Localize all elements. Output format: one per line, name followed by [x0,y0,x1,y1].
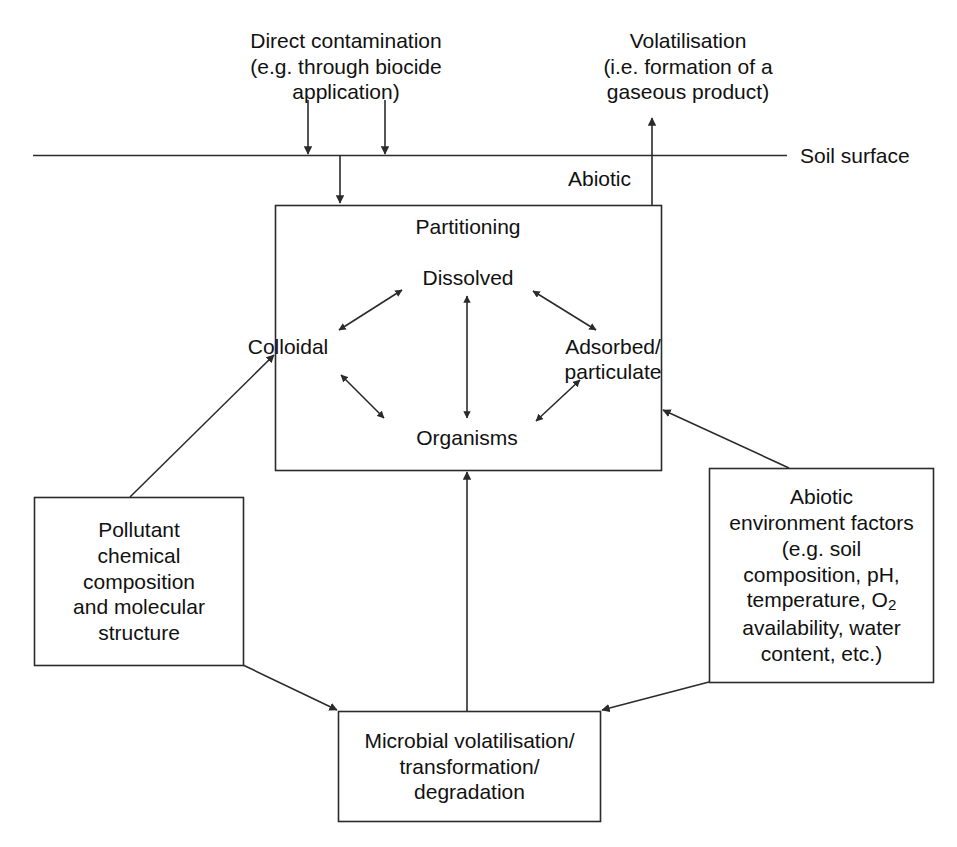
abiotic-factors-line-5: temperature, O2 [747,587,897,615]
abiotic-label: Abiotic [568,166,678,192]
arrow-dissolved-adsorbed [533,291,596,330]
abiotic-factors-line-2: environment factors [729,510,913,536]
abiotic-factors-line-4: composition, pH, [743,562,899,588]
arrow-colloidal-organisms [341,375,384,418]
abiotic-factors-box-text: Abiotic environment factors (e.g. soil c… [709,468,934,683]
arrow-organisms-adsorbed [536,380,580,421]
abiotic-factors-line-1: Abiotic [790,484,853,510]
abiotic-factors-line-3: (e.g. soil [782,536,861,562]
partitioning-header: Partitioning [275,214,661,240]
abiotic-factors-line-5-main: temperature, O [747,588,888,611]
volatilisation-caption: Volatilisation (i.e. formation of a gase… [543,28,833,105]
microbial-box-text: Microbial volatilisation/ transformation… [338,711,601,822]
node-dissolved: Dissolved [393,265,543,290]
direct-contamination-caption: Direct contamination (e.g. through bioci… [186,28,506,105]
abiotic-factors-line-6: availability, water [742,615,900,641]
pollutant-box-text: Pollutant chemical composition and molec… [34,497,244,666]
node-adsorbed-particulate: Adsorbed/ particulate [528,334,698,384]
arrow-abiotic-to-partitioning [663,410,789,468]
arrow-pollutant-to-microbial [243,665,337,710]
soil-surface-label: Soil surface [800,143,950,169]
arrow-colloidal-dissolved [339,290,402,330]
arrow-abiotic-to-microbial [602,682,709,710]
oxygen-subscript: 2 [888,597,896,614]
node-organisms: Organisms [392,425,542,450]
abiotic-factors-line-7: content, etc.) [761,641,882,667]
arrow-pollutant-to-partitioning [130,355,274,497]
node-colloidal: Colloidal [208,334,368,359]
diagram-canvas: Direct contamination (e.g. through bioci… [0,0,957,847]
